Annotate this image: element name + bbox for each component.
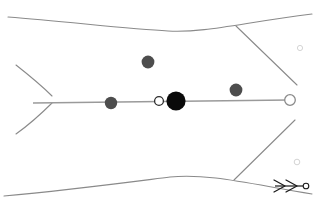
marker-gray-top: [142, 56, 155, 69]
schematic-diagram: [0, 0, 316, 206]
diagram-canvas: [0, 0, 316, 206]
marker-gray-left: [105, 97, 117, 109]
marker-hollow-small: [155, 97, 164, 106]
marker-hollow-endpoint: [285, 95, 296, 106]
marker-black-center: [166, 91, 185, 110]
marker-gray-right: [230, 84, 243, 97]
